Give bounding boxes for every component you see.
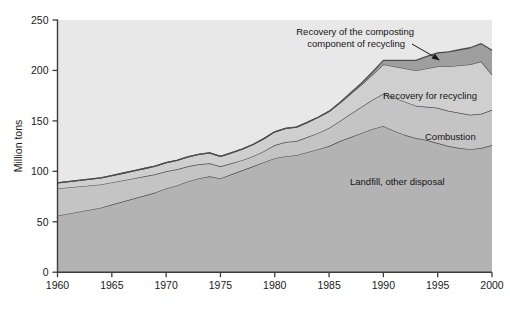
x-tick-label: 1995 [426, 279, 450, 291]
x-tick-label: 1965 [100, 279, 124, 291]
composting-annotation-line2: component of recycling [307, 38, 405, 49]
recycling-annotation: Recovery for recycling [383, 90, 477, 101]
x-tick-label: 1970 [154, 279, 178, 291]
y-tick-label: 150 [31, 115, 49, 127]
chart-container: 0501001502002501960196519701975198019851… [0, 0, 510, 316]
combustion-annotation: Combustion [425, 131, 476, 142]
y-tick-label: 250 [31, 14, 49, 26]
x-tick-label: 1985 [317, 279, 341, 291]
x-tick-label: 1990 [372, 279, 396, 291]
stacked-area-chart: 0501001502002501960196519701975198019851… [0, 0, 510, 316]
composting-annotation-line1: Recovery of the composting [296, 26, 414, 37]
x-tick-label: 1980 [263, 279, 287, 291]
y-tick-label: 200 [31, 64, 49, 76]
x-tick-label: 1960 [46, 279, 70, 291]
x-tick-label: 2000 [480, 279, 504, 291]
y-tick-label: 0 [43, 266, 49, 278]
x-tick-label: 1975 [209, 279, 233, 291]
y-tick-label: 50 [37, 216, 49, 228]
y-axis-title: Million tons [12, 120, 24, 173]
y-tick-label: 100 [31, 165, 49, 177]
landfill-annotation: Landfill, other disposal [350, 176, 445, 187]
